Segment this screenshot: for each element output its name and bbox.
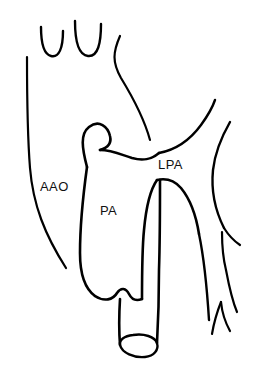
- label-lpa: LPA: [158, 157, 183, 172]
- label-pa: PA: [100, 203, 117, 218]
- anatomy-illustration: AAOPALPA: [0, 0, 259, 366]
- figure-background: [0, 0, 259, 366]
- conduit-left-wall: [119, 299, 120, 345]
- label-aao: AAO: [40, 179, 69, 194]
- anatomical-figure: AAOPALPA: [0, 0, 259, 366]
